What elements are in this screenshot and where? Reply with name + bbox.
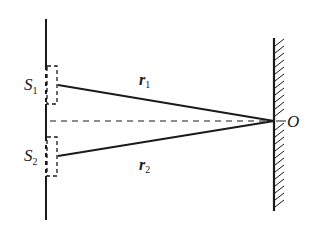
slit-s2 — [47, 137, 57, 176]
slit-s1 — [47, 66, 57, 104]
label-s2: S2 — [24, 146, 38, 167]
label-s1: S1 — [24, 75, 38, 96]
screen-hatched — [274, 38, 286, 211]
label-r2: r2 — [139, 156, 150, 175]
interference-diagram: S1 S2 r1 r2 O — [0, 0, 320, 246]
path-r2 — [58, 121, 274, 156]
path-r1 — [58, 85, 274, 121]
label-o: O — [287, 112, 299, 131]
label-r1: r1 — [139, 71, 150, 90]
